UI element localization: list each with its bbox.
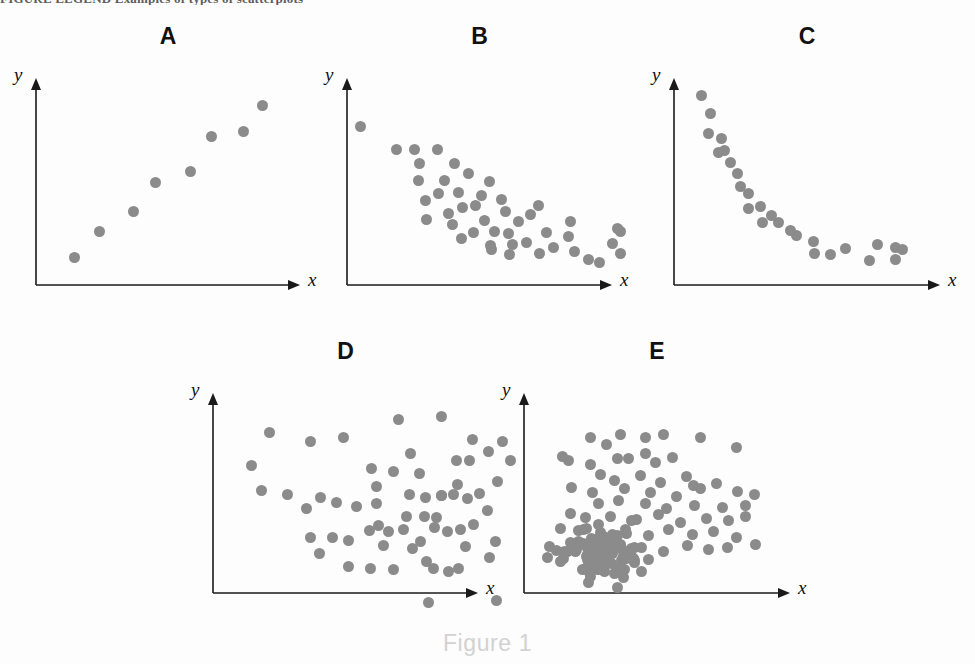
data-point (731, 442, 742, 453)
data-point (593, 498, 604, 509)
data-point (555, 556, 566, 567)
figure-page: FIGURE LEGEND Examples of types of scatt… (0, 0, 975, 664)
data-point (749, 489, 760, 500)
panel-e-y-label: y (502, 379, 510, 401)
data-point (722, 542, 733, 553)
data-point (636, 566, 647, 577)
data-point (667, 452, 678, 463)
data-point (609, 475, 620, 486)
data-point (658, 429, 669, 440)
data-point (645, 487, 656, 498)
panel-e-x-label: x (798, 577, 806, 599)
data-point (585, 459, 596, 470)
data-point (595, 564, 606, 575)
panel-e-letter: E (637, 338, 677, 365)
data-point (593, 519, 604, 530)
data-point (577, 564, 588, 575)
data-point (640, 498, 651, 509)
data-point (731, 532, 742, 543)
data-point (689, 500, 700, 511)
data-point (732, 486, 743, 497)
data-point (682, 540, 693, 551)
data-point (623, 453, 634, 464)
data-point (583, 577, 594, 588)
data-point (650, 457, 661, 468)
data-point (585, 432, 596, 443)
data-point (613, 495, 624, 506)
data-point (653, 509, 664, 520)
data-point (671, 491, 682, 502)
data-point (675, 517, 686, 528)
data-point (566, 482, 577, 493)
data-point (740, 511, 751, 522)
panel-e: E y x (0, 0, 975, 664)
data-point (615, 429, 626, 440)
data-point (598, 531, 609, 542)
data-point (587, 487, 598, 498)
data-point (708, 526, 719, 537)
data-point (687, 529, 698, 540)
data-point (640, 432, 651, 443)
data-point (605, 511, 616, 522)
data-point (640, 448, 651, 459)
data-point (643, 530, 654, 541)
data-point (612, 453, 623, 464)
data-point (601, 439, 612, 450)
data-point (571, 544, 582, 555)
data-point (750, 539, 761, 550)
data-point (542, 552, 553, 563)
data-point (658, 546, 669, 557)
data-point (593, 547, 604, 558)
data-point (612, 582, 623, 593)
data-point (703, 544, 714, 555)
data-point (563, 455, 574, 466)
data-point (595, 469, 606, 480)
data-point (565, 508, 576, 519)
data-point (618, 572, 629, 583)
data-point (701, 513, 712, 524)
data-point (688, 480, 699, 491)
panel-e-axes (0, 0, 975, 664)
data-point (615, 562, 626, 573)
data-point (717, 502, 728, 513)
data-point (663, 524, 674, 535)
data-point (723, 515, 734, 526)
data-point (555, 523, 566, 534)
data-point (643, 554, 654, 565)
data-point (619, 483, 630, 494)
data-point (711, 478, 722, 489)
data-point (655, 477, 666, 488)
data-point (695, 432, 706, 443)
data-point (581, 523, 592, 534)
figure-caption: Figure 1 (0, 630, 975, 657)
data-point (580, 512, 591, 523)
data-point (615, 540, 626, 551)
data-point (740, 500, 751, 511)
data-point (626, 515, 637, 526)
data-point (635, 470, 646, 481)
data-point (559, 546, 570, 557)
